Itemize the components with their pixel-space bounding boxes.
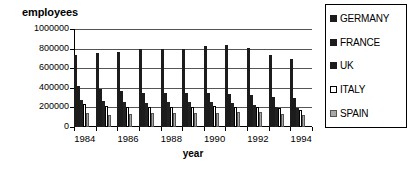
black-square-icon xyxy=(330,15,337,22)
x-axis-tick-mark xyxy=(247,127,248,131)
x-axis-tick-label: 1988 xyxy=(161,133,182,144)
bar-spain-1988 xyxy=(173,113,176,127)
x-axis-tick-mark xyxy=(117,127,118,131)
y-axis-tick-label: 0 xyxy=(64,122,69,131)
legend-label: SPAIN xyxy=(340,108,368,119)
y-axis-title: employees xyxy=(22,6,78,18)
legend-item-italy: ITALY xyxy=(330,80,406,100)
bar-spain-1991 xyxy=(237,112,240,127)
bar-groups xyxy=(74,29,312,127)
x-axis-tick-mark xyxy=(204,127,205,131)
x-axis-tick-mark xyxy=(269,127,270,131)
legend: GERMANYFRANCEUKITALYSPAIN xyxy=(325,4,407,128)
bar-group xyxy=(139,29,161,127)
x-axis-tick-mark xyxy=(290,127,291,131)
y-axis-tick-label: 1000000 xyxy=(34,24,69,33)
x-axis-tick-mark xyxy=(161,127,162,131)
bar-spain-1993 xyxy=(281,114,284,127)
black-square-icon xyxy=(330,62,337,69)
legend-label: FRANCE xyxy=(340,37,380,48)
x-axis-tick-mark xyxy=(74,127,75,131)
legend-item-france: FRANCE xyxy=(330,32,406,52)
black-square-icon xyxy=(330,39,337,46)
legend-item-uk: UK xyxy=(330,56,406,76)
bar-spain-1984 xyxy=(86,113,89,127)
white-square-icon xyxy=(330,86,337,93)
bar-group xyxy=(182,29,204,127)
bar-group xyxy=(290,29,312,127)
x-axis-title: year xyxy=(74,148,312,159)
bar-group xyxy=(225,29,247,127)
bar-group xyxy=(247,29,269,127)
legend-item-germany: GERMANY xyxy=(330,9,406,29)
bar-spain-1989 xyxy=(194,113,197,127)
x-axis-tick-labels: 198419861988199019921994 xyxy=(74,133,312,147)
x-axis-tick-label: 1986 xyxy=(118,133,139,144)
y-axis-tick-label: 800000 xyxy=(39,44,69,53)
bar-group xyxy=(161,29,183,127)
x-axis-tick-label: 1990 xyxy=(204,133,225,144)
legend-label: GERMANY xyxy=(340,13,389,24)
legend-item-spain: SPAIN xyxy=(330,103,406,123)
gray-square-icon xyxy=(330,110,337,117)
y-axis-tick-label: 200000 xyxy=(39,102,69,111)
x-axis-tick-label: 1994 xyxy=(291,133,312,144)
bar-group xyxy=(117,29,139,127)
legend-label: UK xyxy=(340,60,354,71)
x-axis-tick-mark xyxy=(225,127,226,131)
x-axis-tick-mark xyxy=(182,127,183,131)
bar-spain-1992 xyxy=(259,112,262,127)
x-axis-tick-label: 1992 xyxy=(247,133,268,144)
bar-spain-1986 xyxy=(129,114,132,127)
x-axis-tick-mark xyxy=(96,127,97,131)
bar-chart: employees 020000040000060000080000010000… xyxy=(0,0,411,169)
legend-label: ITALY xyxy=(340,84,365,95)
x-axis-tick-mark xyxy=(312,127,313,131)
plot-area xyxy=(74,29,312,127)
bar-spain-1994 xyxy=(302,115,305,127)
bar-spain-1987 xyxy=(151,113,154,127)
y-axis-tick-label: 400000 xyxy=(39,83,69,92)
x-axis-tick-mark xyxy=(139,127,140,131)
bar-group xyxy=(269,29,291,127)
x-axis-tick-label: 1984 xyxy=(74,133,95,144)
bar-spain-1985 xyxy=(108,115,111,127)
bar-group xyxy=(74,29,96,127)
bar-spain-1990 xyxy=(216,113,219,127)
y-axis-tick-label: 600000 xyxy=(39,63,69,72)
bar-group xyxy=(204,29,226,127)
bar-group xyxy=(96,29,118,127)
